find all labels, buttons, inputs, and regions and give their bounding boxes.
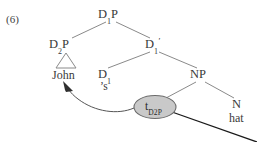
branch-d1p-d1bar: [116, 22, 150, 38]
tree-node-d1: D1: [98, 68, 111, 81]
branch-np-n: [205, 82, 234, 98]
node-suffix: P: [62, 37, 69, 51]
movement-arrow-d2p-to-spec: [69, 90, 134, 112]
tree-node-d1-bar: D1′: [145, 38, 160, 51]
trace-subscript: D2P: [148, 108, 162, 117]
branch-np-trace: [166, 82, 196, 98]
branch-d1bar-np: [159, 52, 197, 68]
node-subscript: 1: [107, 17, 111, 26]
node-label: D: [145, 37, 154, 51]
branch-d1bar-d1: [108, 52, 150, 68]
figure-canvas: (6) D1P D2P D1′ D1 NP N John ’s hat tD2P: [0, 0, 257, 142]
tree-node-d1p: D1P: [98, 8, 118, 21]
node-label: D: [98, 7, 107, 21]
node-label: D: [49, 37, 58, 51]
terminal-hat: hat: [229, 112, 244, 124]
node-subscript: 2: [58, 47, 62, 56]
node-label: D: [98, 67, 107, 81]
dark-line-trace-bottom-right: [172, 112, 257, 142]
node-subscript: 1: [154, 47, 158, 56]
trace-label-d2p: tD2P: [145, 101, 162, 113]
bar-prime-mark: ′: [159, 36, 161, 46]
node-suffix: P: [111, 7, 118, 21]
branch-d1p-d2p: [72, 22, 106, 38]
terminal-john: John: [52, 69, 75, 81]
tree-node-np: NP: [190, 68, 206, 81]
tree-node-n: N: [232, 98, 241, 111]
tree-lines: [0, 0, 257, 142]
tree-node-d2p: D2P: [49, 38, 69, 51]
terminal-possessive-s: ’s: [100, 81, 108, 93]
example-number: (6): [6, 14, 19, 25]
movement-arrowhead: [63, 81, 73, 92]
